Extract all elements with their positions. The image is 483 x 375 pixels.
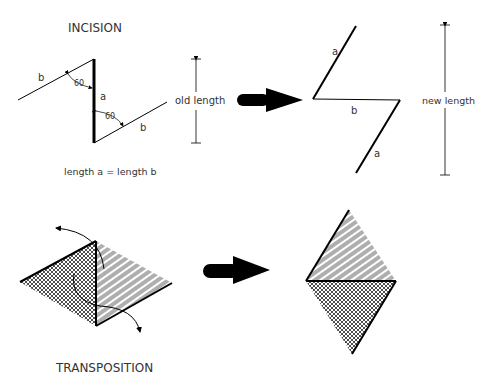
transposition-diagram: TRANSPOSITION xyxy=(20,228,172,375)
transposition-title: TRANSPOSITION xyxy=(55,361,153,375)
arrow-right-icon-2 xyxy=(203,256,270,284)
label-a-lower: a xyxy=(374,148,380,159)
angle-upper: 60 xyxy=(74,79,84,88)
angle-lower: 60 xyxy=(105,112,115,121)
arrow-right-icon xyxy=(237,88,303,112)
transposition-result-diagram xyxy=(306,210,396,354)
label-a-upper: a xyxy=(332,46,338,57)
segment-b xyxy=(313,99,400,100)
segment-b-lower xyxy=(94,102,167,143)
crosshatch-triangle-result xyxy=(306,281,396,354)
diagram-canvas: INCISION b a b 60 60 old length length a… xyxy=(0,0,483,375)
hatched-triangle-result xyxy=(306,210,396,281)
segment-a-upper xyxy=(313,26,356,99)
label-b: b xyxy=(351,105,357,116)
label-a: a xyxy=(100,91,106,102)
old-length-label: old length xyxy=(175,95,225,106)
new-length-label: new length xyxy=(422,95,475,106)
incision-result-diagram: a b a new length xyxy=(313,25,475,175)
segment-a-lower xyxy=(356,100,400,173)
hatched-triangle xyxy=(96,241,172,326)
equation-label: length a = length b xyxy=(64,166,156,177)
incision-title: INCISION xyxy=(68,21,122,35)
label-b-upper: b xyxy=(38,72,44,83)
crosshatch-triangle xyxy=(20,241,96,326)
incision-diagram: INCISION b a b 60 60 old length length a… xyxy=(18,21,225,177)
label-b-lower: b xyxy=(140,122,146,133)
